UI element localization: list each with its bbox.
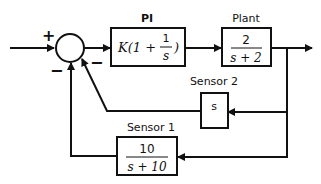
summing-junction	[56, 34, 84, 62]
plant-title: Plant	[232, 12, 260, 25]
sensor1-title: Sensor 1	[127, 121, 175, 134]
sensor1-feedback-path	[71, 63, 117, 156]
pi-expr-prefix: K(1 +	[117, 40, 156, 55]
sensor1-denominator: s + 10	[127, 160, 166, 174]
sensor1-numerator: 10	[139, 142, 154, 156]
pi-expr-suffix: )	[173, 40, 179, 55]
minus-sign-sensor1: −	[50, 61, 63, 80]
pi-denominator: s	[163, 49, 169, 63]
plant-denominator: s + 2	[230, 51, 261, 65]
plus-sign: +	[42, 26, 55, 45]
pi-numerator: 1	[163, 32, 170, 45]
sensor2-transfer-function: s	[211, 100, 217, 113]
sensor2-title: Sensor 2	[190, 75, 238, 88]
plant-numerator: 2	[242, 33, 250, 47]
pi-title: PI	[141, 12, 153, 25]
block-diagram: + − − PI K(1 + 1 s ) Plant 2 s + 2 Senso…	[0, 0, 321, 184]
minus-sign-sensor2: −	[90, 53, 103, 72]
sensor1-input-arrow	[178, 134, 287, 157]
